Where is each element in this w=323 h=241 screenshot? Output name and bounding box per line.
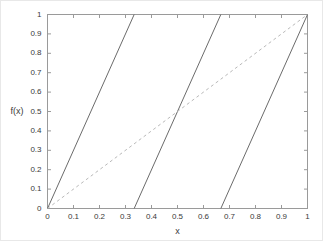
figure-canvas: f(x) x 00.10.20.30.40.50.60.70.80.91 00.… xyxy=(0,0,323,241)
y-tick-label: 0.1 xyxy=(30,185,41,193)
data-lines xyxy=(48,15,308,209)
x-axis-label: x xyxy=(158,227,198,236)
y-tick-label: 0.5 xyxy=(30,108,41,116)
y-tick-label: 0.2 xyxy=(30,166,41,174)
y-tick-label: 0.3 xyxy=(30,146,41,154)
y-axis-label: f(x) xyxy=(11,107,24,116)
y-tick-label: 0 xyxy=(37,205,41,213)
x-tick-label: 1 xyxy=(293,213,323,221)
y-tick-label: 1 xyxy=(37,11,41,19)
plot-svg xyxy=(1,1,323,241)
series-identity-line xyxy=(48,15,308,209)
y-tick-label: 0.9 xyxy=(30,30,41,38)
series-sawtooth-branch-1 xyxy=(48,15,135,209)
y-tick-label: 0.4 xyxy=(30,127,41,135)
series-sawtooth-branch-3 xyxy=(221,15,308,209)
y-tick-label: 0.7 xyxy=(30,69,41,77)
y-tick-label: 0.6 xyxy=(30,88,41,96)
y-tick-label: 0.8 xyxy=(30,49,41,57)
